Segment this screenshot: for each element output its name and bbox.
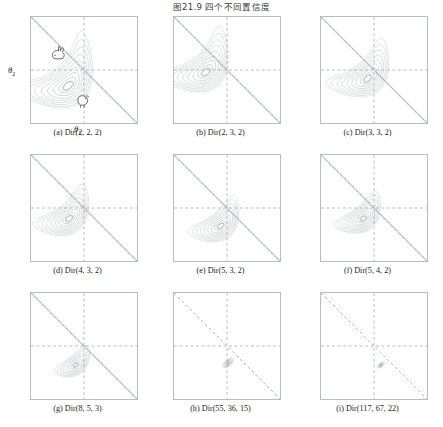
contour-ring [73,363,77,367]
contour-rings-f [334,192,380,234]
panel-frame-a [30,16,138,124]
panel-frame-g [30,292,138,400]
contour-rings-d [33,184,89,235]
contour-ring [352,64,380,89]
figure-title-text: 图21.9 四个不同置信度 [173,2,271,12]
contour-plot-i [321,293,427,399]
contour-core [64,214,74,223]
contour-ring [174,40,225,89]
panel-h: (h) Dir(55, 36, 15) [147,288,294,426]
panel-f: (f) Dir(5, 4, 2) [294,150,441,288]
contour-core [61,79,75,92]
contour-ring [361,216,366,221]
panel-e: (e) Dir(5, 3, 2) [147,150,294,288]
chicken-icon [78,95,89,108]
panel-caption-c: (c) Dir(3, 3, 2) [294,128,441,137]
panel-caption-d: (d) Dir(4, 3, 2) [0,266,151,275]
panel-caption-f: (f) Dir(5, 4, 2) [294,266,441,275]
panel-a: θ2θ1(a) Dir(2, 2, 2) [0,12,147,150]
y-axis-label: θ2 [8,65,15,77]
y-axis-label-sub: 2 [12,71,15,77]
contour-core [200,66,212,78]
panel-c: (c) Dir(3, 3, 2) [294,12,441,150]
panel-i: (i) Dir(117, 67, 22) [294,288,441,426]
contour-ring [174,27,228,92]
panel-frame-c [320,16,428,124]
panel-caption-b: (b) Dir(2, 3, 2) [147,128,294,137]
panel-frame-e [173,154,281,262]
panel-frame-f [320,154,428,262]
contour-plot-g [31,293,137,399]
panel-g: (g) Dir(8, 5, 3) [0,288,147,426]
figure-title: 图21.9 四个不同置信度 [0,0,443,12]
contour-plot-e [174,155,280,261]
contour-core [362,73,373,84]
contour-plot-c [321,17,427,123]
panel-frame-h [173,292,281,400]
contour-core [359,215,367,223]
panel-d: (d) Dir(4, 3, 2) [0,150,147,288]
panel-caption-g: (g) Dir(8, 5, 3) [0,404,151,413]
contour-ring [66,216,72,222]
contour-plot-a [31,17,137,123]
panel-b: (b) Dir(2, 3, 2) [147,12,294,150]
contour-ring [358,214,368,223]
contour-rings-c [326,39,389,97]
contour-plot-b [174,17,280,123]
contour-ring [202,69,210,76]
contour-rings-h [222,358,233,367]
contour-plot-h [174,293,280,399]
contour-rings-i [377,362,384,368]
panel-grid: θ2θ1(a) Dir(2, 2, 2)(b) Dir(2, 3, 2)(c) … [0,12,443,427]
panel-frame-d [30,154,138,262]
panel-frame-i [320,292,428,400]
contour-ring [218,223,224,228]
panel-caption-a: (a) Dir(2, 2, 2) [0,128,151,137]
contour-ring [334,192,380,234]
panel-caption-e: (e) Dir(5, 3, 2) [147,266,294,275]
contour-rings-b [174,27,228,92]
contour-rings-e [188,195,239,242]
contour-ring [64,82,73,90]
contour-core [216,222,225,231]
contour-ring [364,75,371,81]
contour-plot-d [31,155,137,261]
panel-caption-h: (h) Dir(55, 36, 15) [147,404,294,413]
panel-frame-b [173,16,281,124]
contour-ring [188,56,218,83]
panel-caption-i: (i) Dir(117, 67, 22) [294,404,441,413]
contour-ring [188,195,239,242]
contour-plot-f [321,155,427,261]
rabbit-icon [52,46,64,58]
